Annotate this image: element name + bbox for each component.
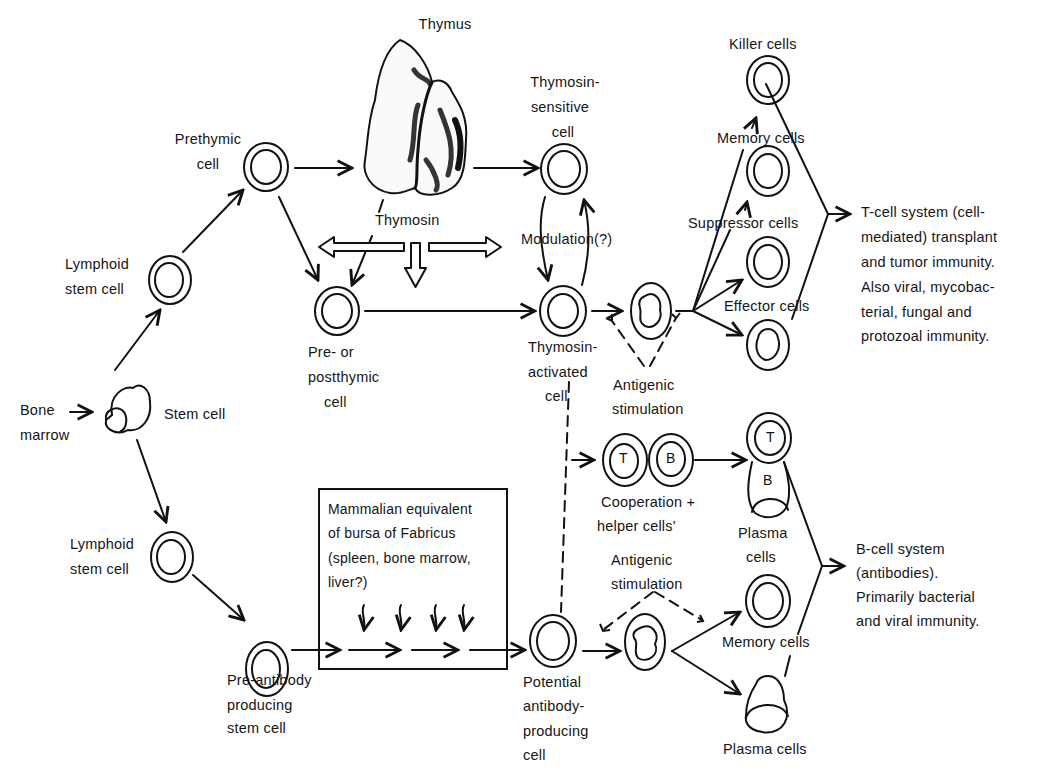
label-antigenic-bottom-1: Antigenic <box>611 548 672 573</box>
label-potential-1: Potential <box>523 670 581 695</box>
label-pre-antibody-3: stem cell <box>227 716 286 741</box>
label-lymphoid-top-2: stem cell <box>65 277 124 302</box>
label-thymosin-sensitive-3: cell <box>518 120 608 145</box>
suppressor-cell-icon <box>747 237 789 287</box>
label-memory-cells-t: Memory cells <box>717 126 805 151</box>
label-pre-post-2: postthymic <box>308 365 379 390</box>
label-lymphoid-top-1: Lymphoid <box>65 252 129 277</box>
label-thymosin-sensitive-1: Thymosin- <box>520 70 610 95</box>
thymosin-right-arrow-icon <box>429 237 501 257</box>
label-thymosin-sensitive-2: sensitive <box>515 95 605 120</box>
label-stem-cell: Stem cell <box>164 402 225 427</box>
label-prethymic-2: cell <box>168 152 248 177</box>
label-bursa-2: of bursa of Fabricus <box>328 521 456 546</box>
label-bone-marrow-2: marrow <box>20 423 70 448</box>
label-potential-4: cell <box>523 743 546 768</box>
arrow-prethymic-to-prepost <box>279 197 318 280</box>
dashed-arrowhead-2 <box>672 313 680 318</box>
plasma-cell-bottom-icon <box>746 676 788 732</box>
b-lymphoblast-icon <box>625 614 665 670</box>
arrow-stem-to-lymphoid-top <box>115 310 160 370</box>
pre-postthymic-cell-icon <box>315 287 359 335</box>
label-plasma-top-1: Plasma <box>738 521 788 546</box>
label-potential-3: producing <box>523 719 589 744</box>
label-t-system-1: T-cell system (cell- <box>861 200 985 225</box>
label-prethymic-1: Prethymic <box>168 127 248 152</box>
label-thymus: Thymus <box>405 12 485 37</box>
arrowhead-to-memory <box>745 202 747 210</box>
label-thymosin-activated-1: Thymosin- <box>528 335 597 360</box>
label-thymosin-activated-3: cell <box>545 384 568 409</box>
label-thymosin: Thymosin <box>375 208 439 233</box>
label-t-mark: T <box>619 450 628 466</box>
arrow-lymphoid-to-preantibody <box>193 575 244 620</box>
label-lymphoid-bottom-1: Lymphoid <box>70 532 134 557</box>
label-antigenic-bottom-2: stimulation <box>611 572 683 597</box>
arrow-lymphoid-to-prethymic <box>183 190 243 252</box>
thymosin-left-arrow-icon <box>319 237 404 257</box>
label-pre-antibody-1: Pre-antibody <box>227 668 312 693</box>
label-lymphoid-bottom-2: stem cell <box>70 557 129 582</box>
arrow-stem-to-lymphoid-bottom <box>137 440 166 522</box>
thymus-organ-icon <box>364 40 466 195</box>
label-b-mark-plasma: B <box>763 472 772 488</box>
label-potential-2: antibody- <box>523 694 584 719</box>
dashed-antigen-to-blast-left <box>612 321 644 366</box>
dashed-antigen-b-left <box>603 592 653 630</box>
b-bracket-tail <box>785 656 790 676</box>
b-branch-to-plasma <box>672 651 740 694</box>
dashed-link-activated-to-potential <box>561 382 569 612</box>
lymphocyte-development-diagram: Thymus Thymosin Prethymic cell Lymphoid … <box>0 0 1045 777</box>
label-cooperation-1: Cooperation + <box>601 490 695 515</box>
label-antigenic-top-2: stimulation <box>612 397 684 422</box>
label-bursa-1: Mammalian equivalent <box>328 497 472 522</box>
thymosin-sensitive-cell-icon <box>541 144 587 194</box>
label-bursa-4: liver?) <box>328 570 368 595</box>
dashed-arrowhead-1 <box>606 314 612 321</box>
label-t-system-2: mediated) transplant <box>861 225 997 250</box>
label-bone-marrow-1: Bone <box>20 398 55 423</box>
label-antigenic-top-1: Antigenic <box>613 373 674 398</box>
t-lymphoblast-icon <box>631 283 671 339</box>
label-effector-cells: Effector cells <box>724 294 810 319</box>
memory-cell-t-icon <box>747 146 789 196</box>
label-pre-antibody-2: producing <box>227 693 293 718</box>
label-b-system-4: and viral immunity. <box>856 609 980 634</box>
label-suppressor-cells: Suppressor cells <box>688 211 798 236</box>
thymosin-down-arrow-icon <box>405 243 426 287</box>
label-t-system-5: terial, fungal and <box>861 300 972 325</box>
label-plasma-bottom: Plasma cells <box>723 737 807 762</box>
label-bursa-3: (spleen, bone marrow, <box>328 546 471 571</box>
stem-cell-icon <box>106 386 150 433</box>
lymphoid-stem-cell-top-icon <box>149 256 191 304</box>
prethymic-cell-icon <box>244 143 288 191</box>
label-thymosin-activated-2: activated <box>528 360 588 385</box>
thymosin-block-arrows <box>319 237 501 287</box>
potential-antibody-cell-icon <box>530 615 576 667</box>
label-modulation: Modulation(?) <box>521 227 612 252</box>
t-system-bracket <box>766 84 828 319</box>
label-b-system-2: (antibodies). <box>856 561 938 586</box>
label-b-system-1: B-cell system <box>856 537 945 562</box>
label-t-system-4: Also viral, mycobac- <box>861 275 995 300</box>
lymphoid-stem-cell-bottom-icon <box>151 532 193 582</box>
effector-cell-icon <box>747 320 789 370</box>
killer-cell-icon <box>747 56 789 104</box>
label-b-mark: B <box>666 450 675 466</box>
label-memory-cells-b: Memory cells <box>722 630 810 655</box>
label-pre-post-3: cell <box>324 390 347 415</box>
label-t-system-6: protozoal immunity. <box>861 324 989 349</box>
thymosin-activated-cell-icon <box>540 286 586 336</box>
label-cooperation-2: helper cells' <box>597 514 676 539</box>
memory-cell-b-icon <box>746 575 790 627</box>
label-b-system-3: Primarily bacterial <box>856 585 975 610</box>
label-t-mark-plasma: T <box>766 429 775 445</box>
label-pre-post-1: Pre- or <box>308 340 354 365</box>
label-t-system-3: and tumor immunity. <box>861 250 995 275</box>
label-plasma-top-2: cells <box>746 545 776 570</box>
label-killer-cells: Killer cells <box>729 32 797 57</box>
